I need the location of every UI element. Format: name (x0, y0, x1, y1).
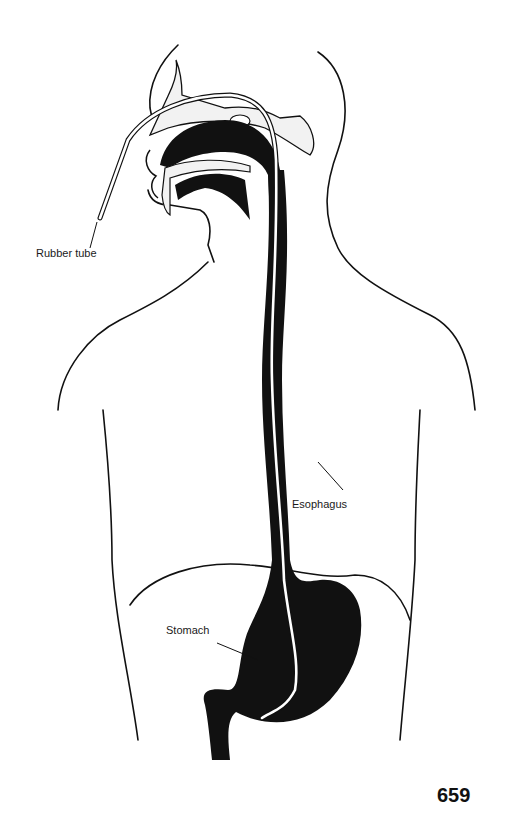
esophagus-label: Esophagus (292, 498, 347, 510)
anatomy-diagram (0, 0, 524, 833)
stomach (204, 560, 362, 760)
stomach-label: Stomach (166, 624, 209, 636)
page-number: 659 (437, 784, 470, 807)
rubber-tube-label: Rubber tube (36, 247, 97, 259)
head-section (146, 60, 313, 260)
